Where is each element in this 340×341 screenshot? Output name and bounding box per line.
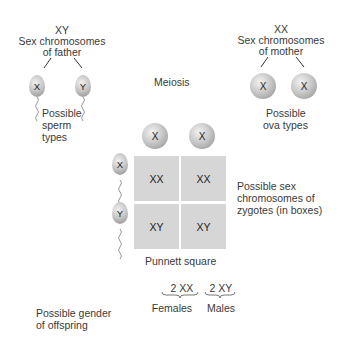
father-label-line2: of father: [12, 46, 112, 58]
sperm-y: Y: [75, 75, 91, 97]
ova-types-label: Possible: [266, 107, 306, 119]
punnett-top-ovum-icon: X: [189, 123, 215, 149]
sperm-head-icon: Y: [112, 202, 128, 224]
sperm-head-icon: X: [112, 153, 128, 175]
sperm-types-label-line3: types: [42, 131, 67, 143]
males-count: 2 XY: [203, 282, 239, 294]
punnett-side-sperm: Y: [112, 202, 128, 224]
zygotes-note-line3: zygotes (in boxes): [237, 204, 322, 216]
meiosis-label: Meiosis: [154, 76, 190, 88]
punnett-cell: XX: [134, 156, 179, 201]
punnett-caption: Punnett square: [145, 255, 216, 267]
punnett-cell: XY: [181, 204, 226, 249]
females-label: Females: [150, 302, 194, 314]
punnett-cell: XY: [134, 204, 179, 249]
sperm-head-icon: X: [29, 75, 45, 97]
sperm-types-label: Possible: [42, 107, 82, 119]
sperm-types-label-line2: sperm: [42, 119, 71, 131]
punnett-side-sperm: X: [112, 153, 128, 175]
sperm-head-icon: Y: [75, 75, 91, 97]
ovum-x-icon: X: [250, 73, 276, 99]
ova-types-label-line2: ova types: [263, 119, 308, 131]
females-count: 2 XX: [160, 282, 204, 294]
offspring-label: Possible gender: [36, 307, 111, 319]
males-label: Males: [203, 302, 239, 314]
punnett-cell: XX: [181, 156, 226, 201]
sperm-x: X: [29, 75, 45, 97]
zygotes-note: Possible sex: [237, 180, 296, 192]
zygotes-note-line2: chromosomes of: [237, 192, 315, 204]
punnett-top-ovum-icon: X: [142, 123, 168, 149]
mother-label-line2: of mother: [231, 45, 331, 57]
ovum-x-icon: X: [291, 73, 317, 99]
offspring-label-line2: of offspring: [36, 319, 88, 331]
